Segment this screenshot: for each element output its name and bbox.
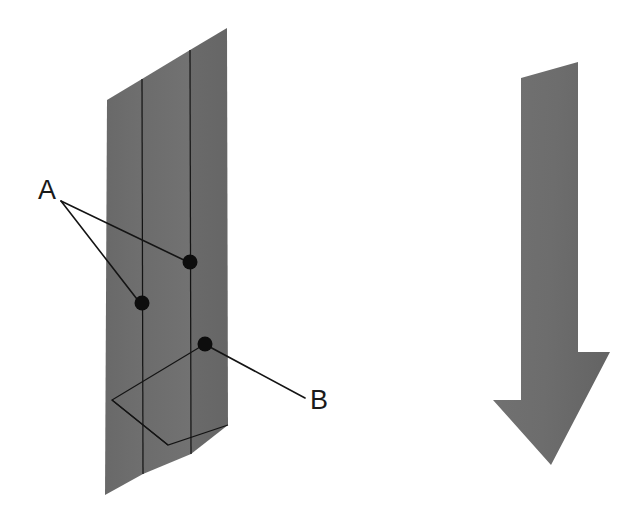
panel-group — [105, 28, 228, 495]
panel-strip-left — [105, 79, 143, 495]
figure-canvas: A B — [0, 0, 644, 525]
marker-dot-a-upper — [183, 255, 198, 270]
marker-dot-b — [198, 337, 213, 352]
label-b: B — [310, 385, 328, 415]
label-a: A — [38, 175, 56, 205]
direction-arrow-down-icon — [493, 62, 610, 465]
marker-dot-a-lower — [135, 296, 150, 311]
panel-strip-right — [190, 28, 228, 454]
figure-root: A B — [0, 0, 644, 525]
